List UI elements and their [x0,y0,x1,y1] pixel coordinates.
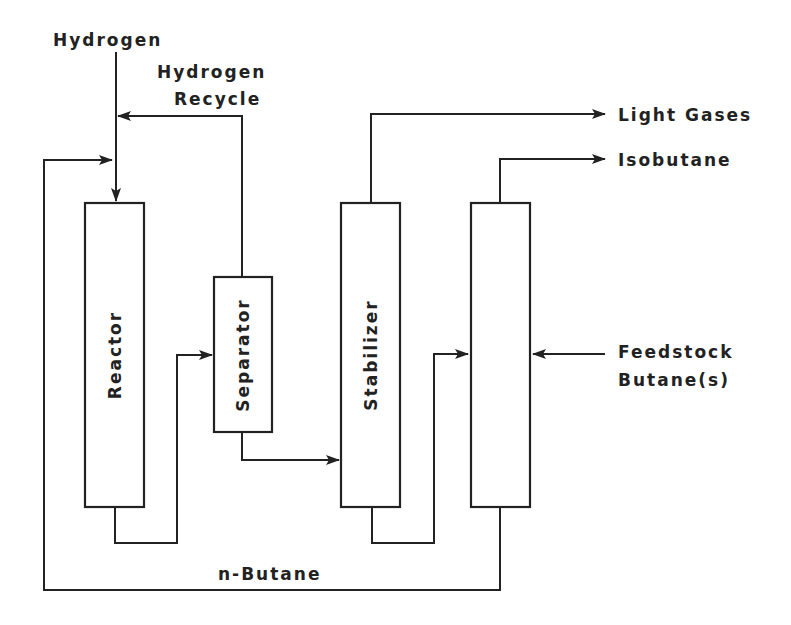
stabilizer-label: Stabilizer [361,299,381,410]
separator-label: Separator [233,298,253,411]
isobutane-line [500,159,605,203]
reactor-label: Reactor [105,311,125,399]
feedstock-label-1: Feedstock [618,342,733,362]
hydrogen-recycle-label-1: Hydrogen [157,62,266,82]
deisobutanizer-column [471,203,530,507]
feedstock-label-2: Butane(s) [618,370,730,390]
n-butane-label: n-Butane [218,564,321,584]
hydrogen-label: Hydrogen [53,30,162,50]
hydrogen-recycle-label-2: Recycle [174,89,261,109]
light-gases-label: Light Gases [618,105,752,125]
separator-to-stabilizer-line [242,432,339,460]
isomerization-flow-diagram: Hydrogen Hydrogen Recycle n-Butane React… [0,0,791,625]
isobutane-label: Isobutane [618,150,732,170]
